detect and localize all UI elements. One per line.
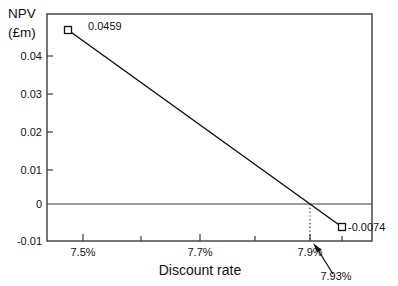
plot-frame <box>47 14 372 241</box>
y-tick-label-0: 0.04 <box>21 50 42 62</box>
x-axis-title: Discount rate <box>159 262 242 278</box>
y-tick-label-2: 0.02 <box>21 126 42 138</box>
y-axis-title-line2: (£m) <box>8 25 36 40</box>
y-axis-ticks <box>47 56 53 170</box>
x-tick-label-0: 7.5% <box>70 246 95 258</box>
y-tick-label-5: -0.01 <box>17 235 42 247</box>
x-axis-ticks <box>83 234 342 241</box>
data-point-label-1: -0.0074 <box>348 221 385 233</box>
y-tick-label-3: 0.01 <box>21 164 42 176</box>
data-point-marker-1 <box>339 224 346 231</box>
y-tick-label-1: 0.03 <box>21 88 42 100</box>
irr-callout-label: 7.93% <box>320 270 351 282</box>
data-point-label-0: 0.0459 <box>88 20 122 32</box>
data-point-marker-0 <box>65 27 72 34</box>
y-axis-title-line1: NPV <box>8 6 36 21</box>
y-tick-label-4: 0 <box>36 198 42 210</box>
x-tick-label-2: 7.7% <box>187 246 212 258</box>
npv-sensitivity-chart: 0.04 0.03 0.02 0.01 0 -0.01 7.5% 7.7% 7.… <box>0 0 398 286</box>
npv-series-line <box>68 30 342 227</box>
chart-container: 0.04 0.03 0.02 0.01 0 -0.01 7.5% 7.7% 7.… <box>0 0 398 286</box>
